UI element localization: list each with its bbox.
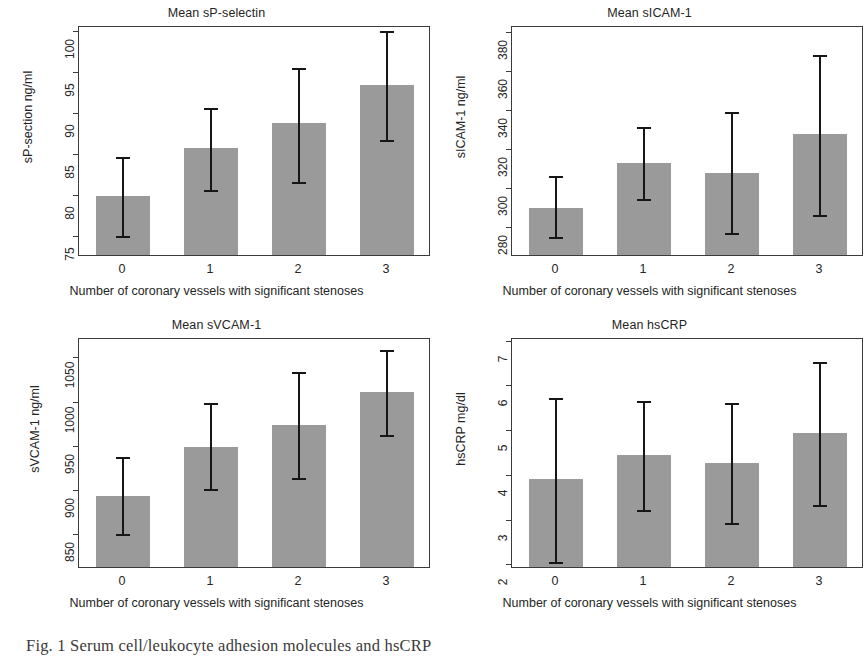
error-bar xyxy=(122,158,124,238)
error-bar-cap-lower xyxy=(725,233,739,235)
x-tick-label: 3 xyxy=(366,262,406,276)
y-tick-label: 900 xyxy=(63,489,77,527)
y-tick-label: 95 xyxy=(63,71,77,109)
error-bar-cap-upper xyxy=(725,112,739,114)
y-tick-label: 340 xyxy=(496,109,510,147)
error-bar-cap-upper xyxy=(380,31,394,33)
error-bar xyxy=(210,404,212,490)
y-tick-label: 950 xyxy=(63,445,77,483)
panel-sicam-1: Mean sICAM-1 sICAM-1 ng/ml Number of cor… xyxy=(433,0,866,312)
error-bar-cap-lower xyxy=(637,199,651,201)
plot-area xyxy=(78,26,430,256)
error-bar xyxy=(643,128,645,200)
error-bar-cap-lower xyxy=(380,140,394,142)
error-bar-cap-upper xyxy=(116,157,130,159)
y-tick-label: 3 xyxy=(496,519,510,557)
y-tick-label: 2 xyxy=(496,563,510,601)
x-tick-label: 1 xyxy=(623,574,663,588)
plot-area xyxy=(511,338,863,568)
error-bar xyxy=(386,32,388,141)
error-bar-cap-lower xyxy=(380,435,394,437)
error-bar-cap-lower xyxy=(549,237,563,239)
y-axis-label: sICAM-1 ng/ml xyxy=(454,2,468,232)
error-bar-cap-lower xyxy=(116,236,130,238)
figure-caption-text: Fig. 1 Serum cell/leukocyte adhesion mol… xyxy=(26,636,456,656)
error-bar xyxy=(731,404,733,523)
error-bar xyxy=(298,373,300,479)
error-bar xyxy=(731,113,733,234)
x-tick-label: 1 xyxy=(623,262,663,276)
y-tick-label: 100 xyxy=(63,30,77,68)
error-bar-cap-upper xyxy=(292,372,306,374)
panel-title: Mean sICAM-1 xyxy=(433,6,866,20)
y-tick-label: 300 xyxy=(496,187,510,225)
y-tick-label: 85 xyxy=(63,153,77,191)
error-bar-cap-upper xyxy=(813,362,827,364)
figure-caption: Fig. 1 Serum cell/leukocyte adhesion mol… xyxy=(26,634,456,658)
error-bar-cap-upper xyxy=(549,398,563,400)
panel-title: Mean sP-selectin xyxy=(0,6,433,20)
x-tick-label: 3 xyxy=(366,574,406,588)
error-bar xyxy=(210,109,212,191)
figure-panel-grid: Mean sP-selectin sP-section ng/ml Number… xyxy=(0,0,866,624)
y-tick-label: 80 xyxy=(63,194,77,232)
y-tick-label: 1000 xyxy=(63,401,77,439)
x-tick-label: 0 xyxy=(535,574,575,588)
y-tick-label: 7 xyxy=(496,340,510,378)
y-tick-label: 6 xyxy=(496,384,510,422)
error-bar-cap-lower xyxy=(813,505,827,507)
error-bar xyxy=(298,69,300,183)
y-tick-label: 360 xyxy=(496,70,510,108)
panel-svcam-1: Mean sVCAM-1 sVCAM-1 ng/ml Number of cor… xyxy=(0,312,433,624)
error-bar-cap-lower xyxy=(813,215,827,217)
error-bar-cap-upper xyxy=(380,350,394,352)
error-bar xyxy=(819,56,821,216)
panel-sp-selectin: Mean sP-selectin sP-section ng/ml Number… xyxy=(0,0,433,312)
error-bar xyxy=(555,177,557,237)
error-bar-cap-lower xyxy=(204,190,218,192)
error-bar-cap-upper xyxy=(292,68,306,70)
x-tick-label: 2 xyxy=(278,574,318,588)
error-bar-cap-upper xyxy=(637,127,651,129)
x-tick-label: 3 xyxy=(799,574,839,588)
x-axis-label: Number of coronary vessels with signific… xyxy=(433,284,866,298)
error-bar xyxy=(386,351,388,436)
error-bar-cap-upper xyxy=(637,401,651,403)
error-bar-cap-upper xyxy=(204,108,218,110)
y-tick-label: 850 xyxy=(63,533,77,571)
panel-hscrp: Mean hsCRP hsCRP mg/dl Number of coronar… xyxy=(433,312,866,624)
x-tick-label: 2 xyxy=(711,262,751,276)
error-bar-cap-upper xyxy=(725,403,739,405)
x-tick-label: 0 xyxy=(535,262,575,276)
y-tick-label: 5 xyxy=(496,429,510,467)
panel-title: Mean hsCRP xyxy=(433,318,866,332)
y-tick-label: 1050 xyxy=(63,356,77,394)
y-tick-label: 4 xyxy=(496,474,510,512)
y-tick-label: 320 xyxy=(496,148,510,186)
error-bar-cap-lower xyxy=(116,534,130,536)
error-bar xyxy=(122,458,124,534)
error-bar-cap-lower xyxy=(637,510,651,512)
error-bar-cap-upper xyxy=(813,55,827,57)
plot-area xyxy=(511,26,863,256)
error-bar-cap-lower xyxy=(292,478,306,480)
x-tick-label: 2 xyxy=(278,262,318,276)
error-bar-cap-upper xyxy=(204,403,218,405)
y-tick-label: 90 xyxy=(63,112,77,150)
error-bar-cap-upper xyxy=(116,457,130,459)
error-bar-cap-upper xyxy=(549,176,563,178)
error-bar xyxy=(643,402,645,511)
x-tick-label: 1 xyxy=(190,574,230,588)
error-bar xyxy=(819,363,821,507)
x-axis-label: Number of coronary vessels with signific… xyxy=(0,284,433,298)
error-bar-cap-lower xyxy=(725,523,739,525)
error-bar xyxy=(555,399,557,563)
x-tick-label: 0 xyxy=(102,262,142,276)
y-axis-label: sP-section ng/ml xyxy=(21,2,35,232)
x-tick-label: 0 xyxy=(102,574,142,588)
plot-area xyxy=(78,338,430,568)
panel-title: Mean sVCAM-1 xyxy=(0,318,433,332)
y-tick-label: 280 xyxy=(496,226,510,264)
x-tick-label: 3 xyxy=(799,262,839,276)
x-tick-label: 2 xyxy=(711,574,751,588)
